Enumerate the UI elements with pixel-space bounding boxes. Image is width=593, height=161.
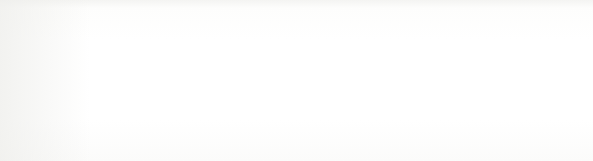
figure-page: 2 4 1 7 3 xyxy=(0,0,593,161)
pointer-label-q: Q xyxy=(263,134,270,145)
step-marker-2: 2 xyxy=(299,38,312,51)
node-value: 1 xyxy=(189,52,195,66)
step-marker-text: 1 xyxy=(380,74,384,83)
step-marker-3: 3 xyxy=(284,116,297,129)
pointer-dot xyxy=(341,113,347,119)
step-marker-1: 1 xyxy=(375,70,388,83)
pointer-label-p: p (points to new node) xyxy=(311,131,408,142)
node-value: 2 xyxy=(35,52,41,66)
node-value: 7 xyxy=(262,52,268,66)
step-marker-text: 2 xyxy=(304,42,308,51)
pointer-variable-p xyxy=(333,105,355,127)
code-line-1: 1. p^.next := Q^.next; xyxy=(398,41,541,55)
node-value: 4 xyxy=(116,52,123,66)
figure-number: Figure 9-4 xyxy=(455,92,517,108)
figure-caption: Adding an item to a nonempty queue xyxy=(455,112,585,142)
step-marker-text: 3 xyxy=(289,120,293,129)
node-value: 3 xyxy=(335,52,341,66)
